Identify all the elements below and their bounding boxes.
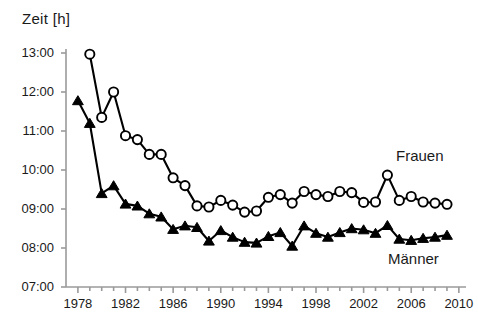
- data-point-frauen: [276, 190, 285, 199]
- x-axis-tick-label: 2002: [342, 296, 386, 311]
- x-axis-tick-label: 1994: [246, 296, 290, 311]
- data-point-frauen: [335, 187, 344, 196]
- data-point-frauen: [347, 188, 356, 197]
- data-point-männer: [299, 221, 310, 230]
- data-point-frauen: [204, 202, 213, 211]
- y-axis-tick-label: 09:00: [8, 201, 54, 216]
- y-axis-tick-label: 07:00: [8, 279, 54, 294]
- data-point-frauen: [216, 196, 225, 205]
- y-axis-tick-label: 08:00: [8, 240, 54, 255]
- data-point-männer: [227, 232, 238, 241]
- x-axis-tick-label: 1986: [151, 296, 195, 311]
- data-point-frauen: [395, 196, 404, 205]
- y-axis-tick-label: 13:00: [8, 45, 54, 60]
- data-point-frauen: [180, 181, 189, 190]
- data-point-männer: [215, 226, 226, 235]
- x-axis-tick-label: 1982: [104, 296, 148, 311]
- data-point-frauen: [228, 201, 237, 210]
- data-point-männer: [382, 221, 393, 230]
- series-label-frauen: Frauen: [396, 147, 444, 164]
- data-point-frauen: [430, 199, 439, 208]
- data-point-frauen: [311, 190, 320, 199]
- data-point-männer: [275, 228, 286, 237]
- data-point-frauen: [157, 150, 166, 159]
- data-point-frauen: [288, 199, 297, 208]
- series-label-maenner: Männer: [388, 250, 439, 267]
- data-point-frauen: [264, 193, 273, 202]
- y-axis-tick-label: 12:00: [8, 84, 54, 99]
- data-point-frauen: [300, 187, 309, 196]
- data-point-frauen: [419, 197, 428, 206]
- data-point-frauen: [121, 131, 130, 140]
- y-axis-tick-label: 11:00: [8, 123, 54, 138]
- data-point-frauen: [85, 50, 94, 59]
- data-point-frauen: [169, 173, 178, 182]
- x-axis-tick-label: 2006: [389, 296, 433, 311]
- data-point-frauen: [359, 198, 368, 207]
- data-point-frauen: [192, 201, 201, 210]
- data-point-frauen: [383, 171, 392, 180]
- chart-container: Zeit [h] Frauen Männer 13:0012:0011:0010…: [0, 0, 478, 326]
- series-line-frauen: [90, 54, 447, 212]
- data-point-frauen: [240, 208, 249, 217]
- data-point-frauen: [442, 200, 451, 209]
- x-axis-tick-label: 2010: [437, 296, 478, 311]
- x-axis-tick-label: 1978: [56, 296, 100, 311]
- data-point-frauen: [371, 197, 380, 206]
- data-point-männer: [73, 96, 84, 105]
- y-axis-tick-label: 10:00: [8, 162, 54, 177]
- data-point-männer: [108, 181, 119, 190]
- data-point-frauen: [252, 206, 261, 215]
- x-axis-tick-label: 1998: [294, 296, 338, 311]
- x-axis-tick-label: 1990: [199, 296, 243, 311]
- data-point-männer: [84, 118, 95, 127]
- data-point-frauen: [97, 113, 106, 122]
- data-point-frauen: [133, 135, 142, 144]
- data-point-frauen: [145, 150, 154, 159]
- data-point-frauen: [407, 192, 416, 201]
- data-point-frauen: [109, 87, 118, 96]
- data-point-frauen: [323, 192, 332, 201]
